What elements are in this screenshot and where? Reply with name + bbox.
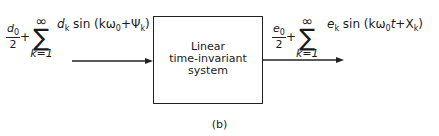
input-arrow <box>72 58 153 64</box>
output-signal-expression: e0 2 + ∞ ∑ k=1 <box>272 14 319 59</box>
output-summation: ∞ ∑ k=1 <box>296 14 319 59</box>
figure-caption: (b) <box>0 118 439 131</box>
output-dc-fraction: e0 2 <box>272 22 286 51</box>
lti-system-label: Linear time-invariant system <box>153 41 263 77</box>
output-series-term: ek sin (kω0t+Xk) <box>327 17 423 33</box>
